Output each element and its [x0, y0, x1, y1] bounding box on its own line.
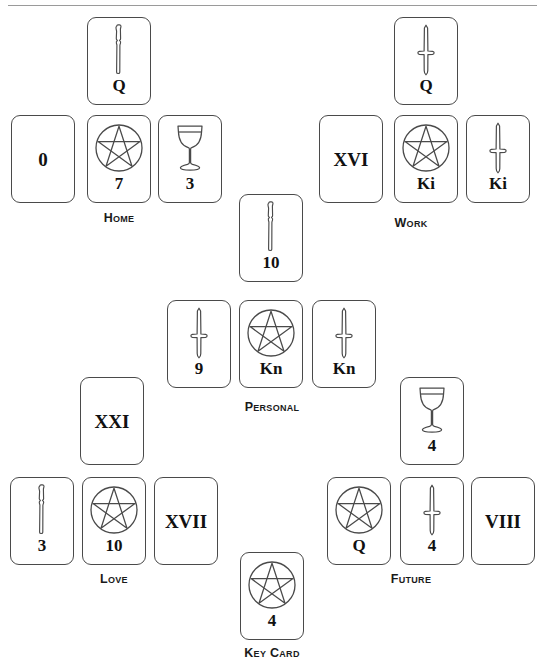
card-work-row-2[interactable]: Ki	[394, 115, 458, 203]
card-future-top[interactable]: 4	[400, 377, 464, 465]
card-rank-label: 10	[106, 537, 123, 554]
card-rank-label: 9	[195, 360, 204, 377]
card-rank-label: Q	[352, 537, 365, 554]
pentacle-icon	[247, 559, 297, 611]
group-label-work: Work	[395, 216, 428, 230]
group-label-future: Future	[391, 572, 431, 586]
card-personal-row-2[interactable]: Kn	[239, 300, 303, 388]
card-rank-label: 4	[268, 612, 277, 629]
card-home-row-2[interactable]: 7	[87, 115, 151, 203]
card-home-top[interactable]: Q	[87, 17, 151, 105]
sword-icon	[188, 307, 210, 359]
pentacle-icon	[94, 122, 144, 174]
card-rank-label: Kn	[260, 360, 283, 377]
sword-icon	[421, 484, 443, 536]
card-love-top[interactable]: XXI	[80, 377, 144, 465]
card-rank-label: XVII	[165, 512, 207, 531]
card-rank-label: XVI	[334, 150, 369, 169]
cup-icon	[173, 122, 207, 174]
card-personal-top[interactable]: 10	[239, 194, 303, 282]
card-rank-label: 0	[38, 150, 48, 169]
card-rank-label: 10	[263, 254, 280, 271]
card-work-top[interactable]: Q	[394, 17, 458, 105]
card-future-row-3[interactable]: VIII	[471, 477, 535, 565]
group-label-personal: Personal	[245, 400, 300, 414]
pentacle-icon	[334, 484, 384, 536]
card-home-row-3[interactable]: 3	[158, 115, 222, 203]
card-rank-label: Ki	[489, 175, 507, 192]
card-work-row-3[interactable]: Ki	[466, 115, 530, 203]
card-work-row-1[interactable]: XVI	[319, 115, 383, 203]
card-rank-label: Q	[419, 77, 432, 94]
card-rank-label: Q	[112, 77, 125, 94]
card-love-row-2[interactable]: 10	[82, 477, 146, 565]
sword-icon	[487, 122, 509, 174]
pentacle-icon	[89, 484, 139, 536]
card-rank-label: VIII	[485, 512, 521, 531]
card-rank-label: Ki	[417, 175, 435, 192]
top-divider-rule	[8, 5, 537, 6]
cup-icon	[415, 384, 449, 436]
group-label-love: Love	[100, 572, 128, 586]
card-love-row-1[interactable]: 3	[10, 477, 74, 565]
tarot-spread-page: Q073HomeQXVIKiKiWork109KnKnPersonalXXI31…	[0, 0, 545, 667]
sword-icon	[415, 24, 437, 76]
wand-icon	[262, 201, 280, 253]
card-rank-label: 3	[186, 175, 195, 192]
wand-icon	[33, 484, 51, 536]
card-rank-label: XXI	[95, 412, 130, 431]
card-rank-label: 4	[428, 537, 437, 554]
card-rank-label: Kn	[333, 360, 356, 377]
group-label-home: Home	[104, 211, 135, 225]
card-rank-label: 3	[38, 537, 47, 554]
card-home-row-1[interactable]: 0	[11, 115, 75, 203]
pentacle-icon	[401, 122, 451, 174]
wand-icon	[110, 24, 128, 76]
card-love-row-3[interactable]: XVII	[154, 477, 218, 565]
pentacle-icon	[246, 307, 296, 359]
sword-icon	[333, 307, 355, 359]
card-rank-label: 7	[115, 175, 124, 192]
card-future-row-2[interactable]: 4	[400, 477, 464, 565]
card-key-single[interactable]: 4	[240, 552, 304, 640]
card-future-row-1[interactable]: Q	[327, 477, 391, 565]
card-personal-row-3[interactable]: Kn	[312, 300, 376, 388]
card-personal-row-1[interactable]: 9	[167, 300, 231, 388]
card-rank-label: 4	[428, 437, 437, 454]
group-label-key-card: Key Card	[244, 646, 299, 660]
